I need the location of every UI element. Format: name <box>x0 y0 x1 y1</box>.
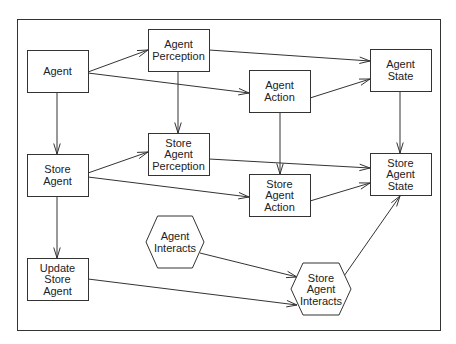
edges-layer <box>54 50 404 307</box>
node-store-agent-state: StoreAgentState <box>371 154 432 196</box>
node-store-agent-perception: StoreAgentPerception <box>149 134 210 176</box>
node-label: Update <box>40 262 75 274</box>
node-label: Agent <box>43 175 72 187</box>
edge-agent-perception-to-agent-state <box>209 50 370 64</box>
edge-store-agent-to-update-store-agent <box>54 196 61 258</box>
edge-line <box>344 196 400 276</box>
edge-agent-action-to-store-agent-action <box>277 112 284 174</box>
node-label: Action <box>264 201 295 213</box>
node-agent-interacts: AgentInteracts <box>146 216 204 268</box>
edge-line <box>88 279 297 305</box>
node-label: Perception <box>152 50 205 62</box>
edge-line <box>310 183 370 201</box>
edge-line <box>310 79 370 98</box>
node-label: Agent <box>164 38 193 50</box>
agent-flow-diagram: AgentAgentPerceptionAgentActionAgentStat… <box>0 0 456 344</box>
edge-line <box>209 159 370 168</box>
edge-line <box>200 253 297 277</box>
node-store-agent: StoreAgent <box>28 155 89 197</box>
node-label: Store <box>165 137 191 149</box>
edge-store-agent-interacts-to-store-agent-state <box>344 196 400 276</box>
node-label: Agent <box>386 58 415 70</box>
node-label: Agent <box>307 283 336 295</box>
node-store-agent-interacts: StoreAgentInteracts <box>291 263 351 315</box>
edge-store-agent-perception-to-store-agent-state <box>209 159 370 171</box>
node-agent-state: AgentState <box>371 50 432 92</box>
edge-line <box>209 50 370 61</box>
node-label: State <box>388 180 414 192</box>
node-label: Agent <box>164 148 193 160</box>
nodes-layer: AgentAgentPerceptionAgentActionAgentStat… <box>28 30 432 316</box>
node-label: Interacts <box>154 242 197 254</box>
node-agent-perception: AgentPerception <box>149 30 210 72</box>
node-label: Agent <box>161 230 190 242</box>
node-label: Perception <box>152 160 205 172</box>
node-label: Store <box>44 163 70 175</box>
node-label: Store <box>44 273 70 285</box>
node-update-store-agent: UpdateStoreAgent <box>28 259 89 301</box>
edge-store-agent-to-store-agent-perception <box>88 152 148 173</box>
node-agent: Agent <box>28 51 89 93</box>
edge-agent-action-to-agent-state <box>310 79 370 98</box>
edge-line <box>88 73 249 93</box>
node-label: Store <box>266 178 292 190</box>
arrowhead-icon <box>391 196 400 206</box>
node-label: Store <box>308 272 334 284</box>
node-label: Action <box>264 91 295 103</box>
edge-agent-to-agent-action <box>88 73 249 95</box>
node-label: Agent <box>386 168 415 180</box>
node-label: Agent <box>265 79 294 91</box>
edge-agent-state-to-store-agent-state <box>397 91 404 153</box>
node-label: Agent <box>43 65 72 77</box>
node-label: Interacts <box>300 295 343 307</box>
edge-line <box>88 152 148 173</box>
edge-agent-to-store-agent <box>54 92 61 154</box>
edge-line <box>88 177 249 197</box>
node-label: State <box>388 70 414 82</box>
node-label: Agent <box>43 285 72 297</box>
node-agent-action: AgentAction <box>250 71 311 113</box>
edge-agent-perception-to-store-agent-perception <box>175 71 182 133</box>
edge-agent-interacts-to-store-agent-interacts <box>200 253 297 278</box>
edge-agent-to-agent-perception <box>88 50 148 72</box>
node-store-agent-action: StoreAgentAction <box>250 175 311 217</box>
node-label: Store <box>387 157 413 169</box>
node-label: Agent <box>265 189 294 201</box>
edge-store-agent-to-store-agent-action <box>88 177 249 199</box>
edge-update-store-agent-to-store-agent-interacts <box>88 279 297 307</box>
edge-store-agent-action-to-store-agent-state <box>310 183 370 201</box>
edge-line <box>88 50 148 72</box>
